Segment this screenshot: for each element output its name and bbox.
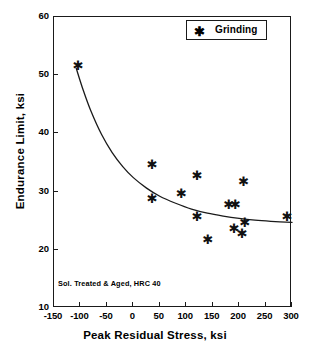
plot-area: ✱✱✱✱✱✱✱✱✱✱✱✱✱✱ xyxy=(53,16,291,307)
x-axis-tick xyxy=(265,302,266,307)
x-axis-tick-label: 200 xyxy=(230,310,246,321)
plot-canvas xyxy=(54,17,292,308)
x-axis-tick-label: 250 xyxy=(257,310,273,321)
x-axis-tick xyxy=(53,302,54,307)
x-axis-tick xyxy=(79,302,80,307)
trend-curve xyxy=(76,68,292,222)
y-axis-tick xyxy=(53,132,58,133)
y-axis-tick xyxy=(53,191,58,192)
x-axis-label: Peak Residual Stress, ksi xyxy=(0,329,310,341)
x-axis-tick xyxy=(132,302,133,307)
x-axis-tick-label: 150 xyxy=(204,310,220,321)
y-axis-tick xyxy=(53,74,58,75)
legend-item-label: Grinding xyxy=(215,24,257,35)
chart-legend: ✱ Grinding xyxy=(186,20,267,40)
chart-figure: Endurance Limit, ksi ✱✱✱✱✱✱✱✱✱✱✱✱✱✱ -150… xyxy=(0,0,310,358)
y-axis-tick xyxy=(53,249,58,250)
x-axis-tick xyxy=(106,302,107,307)
asterisk-marker-icon: ✱ xyxy=(194,28,205,36)
x-axis-tick-label: -50 xyxy=(99,310,112,321)
x-axis-tick-label: 100 xyxy=(177,310,193,321)
chart-annotation: Sol. Treated & Aged, HRC 40 xyxy=(58,279,161,288)
x-axis-tick xyxy=(159,302,160,307)
y-axis-label: Endurance Limit, ksi xyxy=(14,51,26,251)
x-axis-tick-label: -100 xyxy=(70,310,89,321)
x-axis-tick-label: 300 xyxy=(283,310,299,321)
x-axis-tick xyxy=(212,302,213,307)
x-axis-tick-label: 50 xyxy=(154,310,164,321)
x-axis-tick xyxy=(291,302,292,307)
x-axis-tick xyxy=(238,302,239,307)
x-axis-tick xyxy=(185,302,186,307)
x-axis-tick-label: 0 xyxy=(130,310,135,321)
